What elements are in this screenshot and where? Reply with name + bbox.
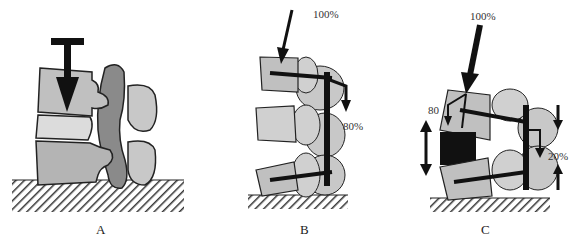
- panel-label-a: A: [96, 222, 105, 238]
- panel-b: 100% 80% B: [200, 0, 390, 245]
- annotation-100-percent: 100%: [313, 8, 339, 20]
- wedge-block: [440, 132, 476, 165]
- fixation-rod: [324, 72, 330, 186]
- annotation-20-percent: 20%: [548, 150, 568, 162]
- transfer-arrow-icon: [341, 100, 351, 112]
- annotation-80: 80: [428, 104, 439, 116]
- panel-c: 100% 80 20% C: [390, 0, 571, 245]
- panel-label-c: C: [481, 222, 490, 238]
- facet-column: [98, 65, 127, 188]
- panel-label-b: B: [300, 222, 309, 238]
- panel-a: A: [0, 0, 200, 245]
- annotation-80-percent: 80%: [343, 120, 363, 132]
- panel-c-illustration: [390, 0, 571, 245]
- panel-a-illustration: [0, 0, 200, 245]
- load-arrow-icon: [461, 72, 479, 94]
- fixation-rod: [523, 105, 529, 190]
- ground-hatch: [248, 195, 348, 209]
- load-bar: [51, 38, 84, 45]
- lower-vertebra: [36, 141, 113, 185]
- annotation-100-percent: 100%: [470, 10, 496, 22]
- disc: [36, 115, 92, 140]
- double-arrow-icon: [420, 120, 432, 132]
